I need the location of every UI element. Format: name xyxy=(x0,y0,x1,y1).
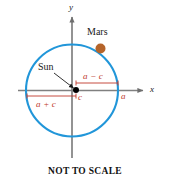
measure-a-minus-c xyxy=(76,81,118,86)
measure-label-a-plus-c: a + c xyxy=(36,100,56,109)
semi-major-axis-label-a: a xyxy=(121,92,126,101)
y-axis-label: y xyxy=(69,3,73,12)
mars-body xyxy=(96,44,106,54)
figure-caption: NOT TO SCALE xyxy=(0,166,170,176)
sun-leader-line xyxy=(54,73,74,88)
focal-distance-label-c: c xyxy=(78,93,82,102)
diagram-canvas xyxy=(0,0,170,186)
mars-label: Mars xyxy=(87,27,108,37)
measure-label-a-minus-c: a − c xyxy=(83,72,103,81)
x-axis-label: x xyxy=(150,85,154,94)
sun-label: Sun xyxy=(38,62,54,72)
orbit-diagram-figure: y x Mars Sun a − c a + c a c NOT TO SCAL… xyxy=(0,0,170,186)
measure-a-plus-c xyxy=(27,94,76,99)
